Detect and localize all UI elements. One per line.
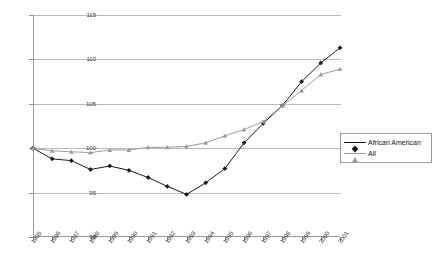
series-line xyxy=(33,48,340,195)
legend-item-african-american: African American xyxy=(344,137,428,148)
series-african-american xyxy=(31,45,343,196)
data-point xyxy=(184,192,189,197)
data-point xyxy=(127,168,132,173)
data-point xyxy=(88,167,93,172)
data-point xyxy=(146,175,151,180)
legend-label-african-american: African American xyxy=(366,138,421,147)
data-point xyxy=(338,67,343,71)
series-line xyxy=(33,69,340,152)
legend-label-all: All xyxy=(366,149,376,158)
data-point xyxy=(50,156,55,161)
data-point xyxy=(69,158,74,163)
series-all xyxy=(31,67,343,155)
legend-marker-african-american xyxy=(344,137,366,148)
legend-marker-all xyxy=(344,148,366,159)
chart-legend: African American All xyxy=(340,133,432,163)
data-point xyxy=(107,164,112,169)
line-chart: 9095100105110115 19851986198719881989199… xyxy=(0,0,435,275)
data-point xyxy=(165,184,170,189)
legend-item-all: All xyxy=(344,148,428,159)
